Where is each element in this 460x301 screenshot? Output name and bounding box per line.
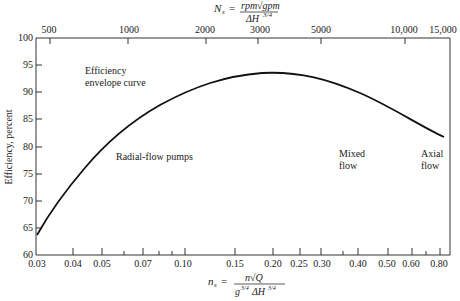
annotation-radial-flow: Radial-flow pumps <box>116 151 193 162</box>
y-axis-label: Efficiency, percent <box>3 109 14 184</box>
top-tick-label: 1000 <box>119 24 139 35</box>
y-tick-label: 65 <box>23 222 33 233</box>
top-axis-ticks <box>50 38 405 44</box>
annotation-mixed-line2: flow <box>339 160 358 171</box>
x-tick-label: 0.50 <box>378 258 396 269</box>
annotation-envelope-line1: Efficiency <box>85 65 126 76</box>
y-axis-ticks <box>36 65 42 228</box>
y-tick-label: 75 <box>23 168 33 179</box>
x-axis-ticks <box>73 248 440 255</box>
svg-text:3/4: 3/4 <box>240 285 249 291</box>
x-tick-label: 0.60 <box>402 258 420 269</box>
annotation-axial-line1: Axial <box>421 148 443 159</box>
svg-text:g: g <box>235 286 240 297</box>
x-tick-label: 0.03 <box>28 258 46 269</box>
x-tick-label: 0.40 <box>349 258 367 269</box>
top-tick-label: 3000 <box>250 24 270 35</box>
top-tick-label: 15,000 <box>429 24 457 35</box>
svg-text:ΔH: ΔH <box>251 286 266 297</box>
svg-text:3/4: 3/4 <box>267 285 276 291</box>
x-tick-label: 0.04 <box>64 258 82 269</box>
x-tick-label: 0.30 <box>313 258 331 269</box>
top-axis-tick-labels: 500 1000 2000 3000 5000 10,000 15,000 <box>42 24 457 35</box>
y-tick-label: 70 <box>23 195 33 206</box>
x-tick-label: 0.10 <box>174 258 192 269</box>
svg-text:=: = <box>221 275 227 287</box>
svg-text:3/4: 3/4 <box>262 11 272 19</box>
y-axis-tick-labels: 100 95 90 85 80 75 70 65 60 <box>18 32 33 260</box>
y-tick-label: 95 <box>23 59 33 70</box>
y-tick-label: 85 <box>23 113 33 124</box>
svg-text:n√Q: n√Q <box>245 272 263 283</box>
svg-text:s: s <box>222 8 225 16</box>
svg-text:ΔH: ΔH <box>245 13 260 24</box>
x-tick-label: 0.80 <box>430 258 448 269</box>
bottom-axis-formula: n s = n√Q g 3/4 ΔH 3/4 <box>208 272 285 297</box>
x-tick-label: 0.25 <box>290 258 308 269</box>
svg-text:N: N <box>213 2 222 14</box>
svg-text:=: = <box>229 2 235 14</box>
annotation-axial-line2: flow <box>421 160 440 171</box>
x-tick-label: 0.15 <box>226 258 244 269</box>
top-axis-formula: N s = rpm√gpm ΔH 3/4 <box>213 0 280 24</box>
top-tick-label: 10,000 <box>390 24 418 35</box>
svg-text:rpm√gpm: rpm√gpm <box>241 0 280 11</box>
y-tick-label: 80 <box>23 141 33 152</box>
top-tick-label: 5000 <box>311 24 331 35</box>
x-tick-label: 0.05 <box>93 258 111 269</box>
efficiency-envelope-curve <box>37 73 444 235</box>
svg-text:s: s <box>214 281 217 289</box>
x-tick-label: 0.20 <box>264 258 282 269</box>
x-tick-label: 0.07 <box>134 258 152 269</box>
efficiency-chart: 100 95 90 85 80 75 70 65 60 Efficiency, … <box>0 0 460 301</box>
top-tick-label: 2000 <box>195 24 215 35</box>
y-tick-label: 100 <box>18 32 33 43</box>
top-tick-label: 500 <box>42 24 57 35</box>
annotation-envelope-line2: envelope curve <box>85 77 146 88</box>
y-tick-label: 90 <box>23 86 33 97</box>
annotation-mixed-line1: Mixed <box>339 148 365 159</box>
x-axis-tick-labels: 0.03 0.04 0.05 0.07 0.10 0.15 0.20 0.25 … <box>28 258 448 269</box>
